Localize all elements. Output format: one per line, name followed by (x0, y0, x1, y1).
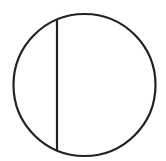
circle-chord-diagram (0, 0, 166, 161)
circle-outline (14, 14, 156, 156)
